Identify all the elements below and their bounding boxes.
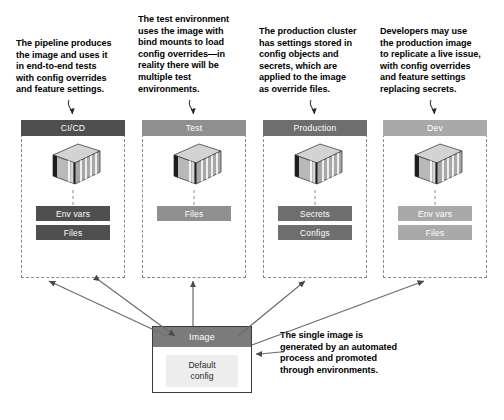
annotation-dev: Developers may use the production image … <box>380 26 494 96</box>
production-item-configs-label: Configs <box>300 228 330 238</box>
container-image-cube-production <box>284 142 346 190</box>
image-node-label: Image <box>189 332 215 342</box>
cicd-item-env-vars-label: Env vars <box>56 209 90 219</box>
dev-item-env-vars[interactable]: Env vars <box>398 206 472 221</box>
test-item-files[interactable]: Files <box>157 206 231 221</box>
production-header[interactable]: Production <box>263 120 367 136</box>
environment-column-dev: Dev Env vars Files <box>383 120 487 278</box>
arrow-image-to-cicd <box>49 281 167 336</box>
dev-header[interactable]: Dev <box>383 120 487 136</box>
cicd-item-files[interactable]: Files <box>36 225 110 240</box>
annotation-test: The test environment uses the image with… <box>138 14 246 95</box>
container-image-cube-dev <box>404 142 466 190</box>
environment-column-test: Test Files <box>142 120 246 278</box>
cicd-item-files-label: Files <box>64 228 83 238</box>
cicd-header[interactable]: CI/CD <box>21 120 125 136</box>
dev-item-files[interactable]: Files <box>398 225 472 240</box>
production-header-label: Production <box>293 123 336 133</box>
default-config-line1: Default <box>188 360 215 371</box>
annotation-image: The single image is generated by an auto… <box>280 330 440 376</box>
callout-arrow-test <box>189 100 193 114</box>
environment-column-production: Production Secrets Configs <box>263 120 367 278</box>
dev-header-label: Dev <box>427 123 443 133</box>
cicd-item-env-vars[interactable]: Env vars <box>36 206 110 221</box>
production-item-configs[interactable]: Configs <box>278 225 352 240</box>
cicd-header-label: CI/CD <box>61 123 85 133</box>
production-item-secrets-label: Secrets <box>300 209 330 219</box>
environment-column-cicd: CI/CD <box>21 120 125 278</box>
callout-arrow-production <box>310 100 314 114</box>
test-item-files-label: Files <box>185 209 204 219</box>
default-config-line2: config <box>191 371 214 382</box>
diagram-canvas: The pipeline produces the image and uses… <box>0 0 504 420</box>
test-header-label: Test <box>186 123 203 133</box>
image-node[interactable]: Image Default config <box>152 326 252 393</box>
annotation-cicd: The pipeline produces the image and uses… <box>16 38 124 96</box>
dev-item-env-vars-label: Env vars <box>418 209 452 219</box>
callout-arrow-cicd <box>68 100 72 114</box>
container-image-cube-test <box>163 142 225 190</box>
default-config-box: Default config <box>166 355 238 387</box>
callout-arrow-dev <box>430 100 434 114</box>
production-item-secrets[interactable]: Secrets <box>278 206 352 221</box>
test-header[interactable]: Test <box>142 120 246 136</box>
dev-item-files-label: Files <box>426 228 445 238</box>
container-image-cube-cicd <box>42 142 104 190</box>
annotation-production: The production cluster has settings stor… <box>259 26 371 96</box>
image-node-header: Image <box>153 327 251 347</box>
